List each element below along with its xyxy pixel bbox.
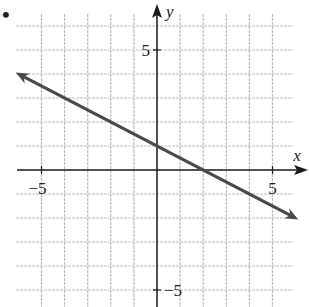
y-axis-label: y	[164, 2, 174, 21]
grid-lines	[16, 14, 293, 307]
coordinate-plane: • −555−5xy	[0, 0, 309, 307]
x-tick-label: 5	[268, 179, 277, 198]
y-tick-label: −5	[164, 281, 182, 300]
problem-bullet: •	[2, 2, 10, 27]
x-axis-label: x	[292, 146, 301, 165]
y-tick-label: 5	[142, 41, 151, 60]
x-tick-label: −5	[28, 179, 46, 198]
